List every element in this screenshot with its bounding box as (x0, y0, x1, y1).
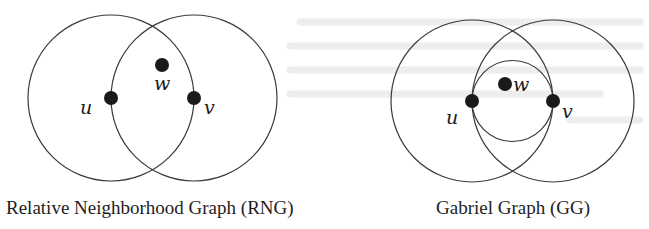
diagram-canvas: u v w u v w (0, 0, 649, 229)
gg-label-v: v (562, 100, 573, 122)
rng-node-v (187, 91, 201, 105)
gg-node-w (498, 77, 512, 91)
rng-node-w (155, 58, 169, 72)
rng-diagram: u v w (28, 15, 277, 181)
rng-caption: Relative Neighborhood Graph (RNG) (6, 197, 294, 219)
rng-label-w: w (154, 72, 170, 94)
rng-label-v: v (204, 96, 215, 118)
rng-label-u: u (80, 96, 92, 118)
graph-comparison-figure: u v w u v w Relative Neighborhood Graph … (0, 0, 649, 229)
rng-node-u (104, 91, 118, 105)
bleed-through-texture (290, 22, 640, 120)
gg-label-w: w (513, 73, 529, 95)
gg-node-v (546, 94, 560, 108)
gg-label-u: u (446, 106, 458, 128)
gg-caption: Gabriel Graph (GG) (436, 197, 590, 219)
gg-node-u (465, 94, 479, 108)
